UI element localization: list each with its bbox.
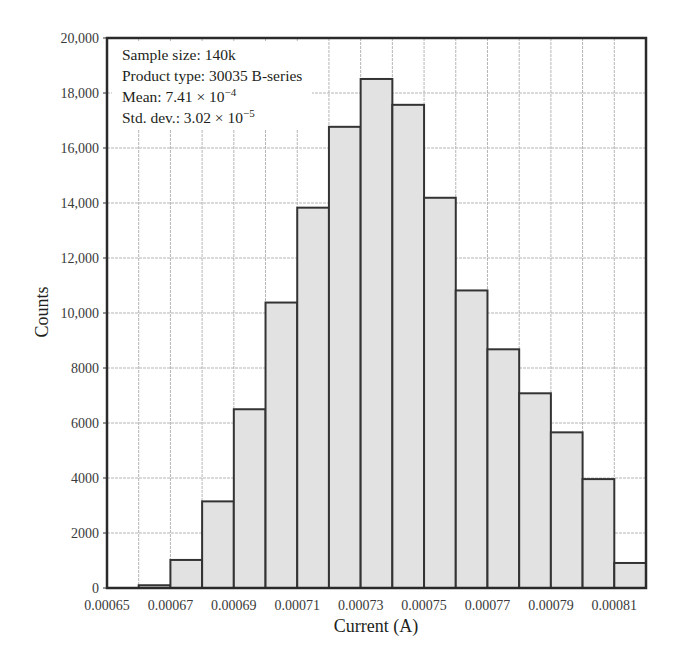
histogram-chart: 0200040006000800010,00012,00014,00016,00…: [0, 0, 680, 672]
histogram-bar: [297, 208, 329, 588]
histogram-bar: [361, 79, 393, 588]
product-type-text: Product type: 30035 B-series: [122, 67, 302, 84]
x-tick-label: 0.00067: [148, 598, 194, 613]
x-tick-label: 0.00071: [274, 598, 320, 613]
sample-size-text: Sample size: 140k: [122, 46, 236, 63]
x-tick-label: 0.00069: [211, 598, 257, 613]
histogram-bar: [202, 501, 234, 588]
histogram-bar: [329, 127, 361, 588]
y-tick-label: 18,000: [61, 86, 100, 101]
histogram-bar: [487, 349, 519, 588]
x-tick-label: 0.00081: [592, 598, 638, 613]
y-tick-label: 14,000: [61, 196, 100, 211]
y-tick-label: 16,000: [61, 141, 100, 156]
y-tick-label: 4000: [71, 471, 99, 486]
y-tick-label: 2000: [71, 526, 99, 541]
y-tick-label: 0: [92, 581, 99, 596]
y-tick-label: 12,000: [61, 251, 100, 266]
histogram-bar: [519, 393, 551, 588]
histogram-bar: [614, 563, 646, 588]
x-tick-label: 0.00073: [338, 598, 384, 613]
x-axis-ticks: 0.000650.000670.000690.000710.000730.000…: [84, 598, 637, 613]
x-axis-title: Current (A): [334, 616, 418, 637]
y-tick-label: 8000: [71, 361, 99, 376]
histogram-bar: [266, 303, 298, 588]
x-tick-label: 0.00065: [84, 598, 130, 613]
y-tick-label: 10,000: [61, 306, 100, 321]
histogram-bar: [392, 105, 424, 588]
histogram-bars: [139, 79, 646, 588]
std-dev-text: Std. dev.: 3.02 × 10−5: [122, 107, 255, 126]
y-tick-label: 6000: [71, 416, 99, 431]
x-tick-label: 0.00075: [401, 598, 447, 613]
histogram-bar: [170, 560, 202, 588]
histogram-bar: [583, 479, 615, 588]
y-axis-ticks: 0200040006000800010,00012,00014,00016,00…: [61, 31, 108, 596]
histogram-bar: [234, 409, 266, 588]
y-axis-title: Counts: [32, 286, 52, 337]
stats-annotation: Sample size: 140k Product type: 30035 B-…: [112, 42, 312, 130]
y-tick-label: 20,000: [61, 31, 100, 46]
x-tick-label: 0.00077: [465, 598, 511, 613]
histogram-bar: [456, 290, 488, 588]
histogram-bar: [551, 432, 583, 588]
mean-text: Mean: 7.41 × 10−4: [122, 86, 237, 105]
histogram-bar: [424, 198, 456, 588]
x-tick-label: 0.00079: [528, 598, 574, 613]
